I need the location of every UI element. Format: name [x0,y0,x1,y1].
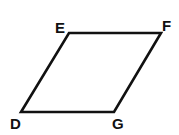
vertex-label-d: D [10,115,21,132]
parallelogram-diagram: E F G D [0,0,179,135]
parallelogram-defg [21,33,161,112]
vertex-label-e: E [55,19,65,36]
vertex-label-f: F [162,17,171,34]
vertex-label-g: G [112,115,124,132]
